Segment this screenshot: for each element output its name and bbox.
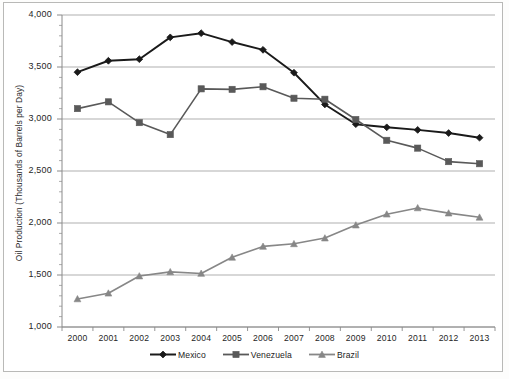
series-brazil (74, 205, 483, 302)
legend-label: Venezuela (251, 350, 292, 360)
data-point-marker (105, 57, 112, 64)
legend-item-brazil[interactable]: Brazil (309, 349, 359, 360)
x-axis-ticks (62, 327, 495, 331)
data-point-marker (260, 84, 266, 90)
data-point-marker (105, 99, 111, 105)
data-point-marker (229, 39, 236, 46)
data-point-marker (414, 127, 421, 134)
series-venezuela (74, 84, 482, 167)
data-point-marker (446, 159, 452, 165)
series-mexico (74, 30, 483, 141)
legend-swatch-diamond-icon (150, 349, 176, 360)
line-chart-plot (0, 0, 509, 379)
data-point-marker (476, 161, 482, 167)
data-point-marker (445, 130, 452, 137)
legend-label: Brazil (337, 350, 359, 360)
data-point-marker (383, 124, 390, 131)
legend-label: Mexico (178, 350, 206, 360)
chart-figure: Oil Production (Thousands of Barrels per… (0, 0, 509, 379)
data-point-marker (322, 96, 328, 102)
legend-swatch-square-icon (223, 349, 249, 360)
data-point-marker (74, 106, 80, 112)
data-point-marker (353, 116, 359, 122)
chart-legend: MexicoVenezuelaBrazil (0, 349, 509, 360)
legend-item-mexico[interactable]: Mexico (150, 349, 206, 360)
series-line (77, 208, 479, 299)
data-point-marker (229, 86, 235, 92)
data-point-marker (198, 30, 205, 37)
data-point-marker (160, 351, 167, 358)
data-point-marker (136, 120, 142, 126)
data-point-marker (384, 137, 390, 143)
y-axis-ticks (57, 15, 62, 327)
data-point-marker (198, 86, 204, 92)
data-point-marker (167, 132, 173, 138)
legend-item-venezuela[interactable]: Venezuela (223, 349, 292, 360)
data-point-marker (476, 134, 483, 141)
data-point-marker (415, 145, 421, 151)
data-point-marker (74, 69, 81, 76)
data-point-marker (291, 95, 297, 101)
data-series-layer (74, 30, 483, 302)
data-point-marker (233, 351, 239, 357)
legend-swatch-triangle-icon (309, 349, 335, 360)
